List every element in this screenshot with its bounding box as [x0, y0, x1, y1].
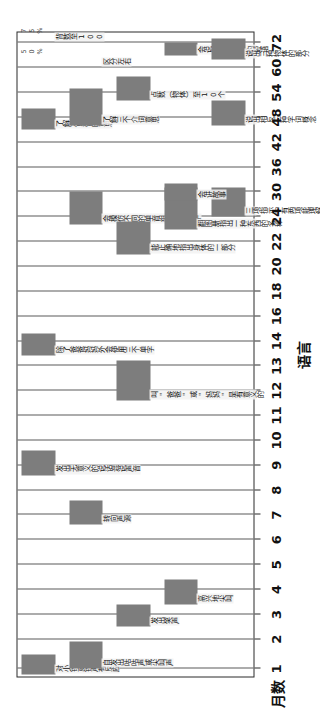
axis-tick: [254, 191, 260, 192]
milestone-label: 说出三种物体的部分: [244, 48, 256, 58]
milestone-label: 点数（物体）至10个: [149, 90, 225, 100]
milestone-bar: [211, 100, 245, 125]
milestone-label: 发出无意义的说话混说声音: [54, 464, 140, 474]
axis-tick: [254, 668, 260, 669]
axis-tick-label: 42: [268, 133, 283, 151]
axis-tick: [254, 489, 260, 490]
axis-tick: [254, 514, 260, 515]
gridline: [17, 439, 253, 440]
gridline: [17, 265, 253, 266]
axis-tick: [254, 240, 260, 241]
axis-tick: [254, 414, 260, 415]
axis-tick-label: 30: [268, 182, 283, 200]
milestone-label: 转向声源: [101, 514, 131, 524]
milestone-label: 区分左右: [101, 57, 131, 67]
axis-tick-label: 3: [268, 609, 283, 618]
milestone-label: 高兴地尖叫: [196, 593, 233, 603]
axis-tick: [254, 439, 260, 440]
axis-tick-label: 7: [268, 510, 283, 519]
milestone-label: 发出笑声: [149, 616, 179, 626]
axis-tick-label: 18: [268, 282, 283, 300]
axis-tick-label: 36: [268, 158, 283, 176]
gridline: [17, 414, 253, 415]
gridline: [17, 514, 253, 515]
milestone-label: 自发出咕咕声或尖叫声: [101, 658, 173, 668]
axis-tick: [254, 464, 260, 465]
milestone-label: 叫"爸爸"或"妈妈"是有意义的: [149, 389, 256, 399]
axis-tick: [254, 141, 260, 142]
axis-tick: [254, 91, 260, 92]
gridline: [17, 638, 253, 639]
milestone-label: 能正确地指出身体的一部分: [149, 243, 235, 253]
axis-tick-label: 4: [268, 584, 283, 593]
axis-tick-label: 6: [268, 535, 283, 544]
axis-tick-label: 11: [268, 406, 283, 424]
gridline: [17, 66, 253, 67]
axis-tick-label: 22: [268, 232, 283, 250]
gridline: [17, 315, 253, 316]
milestone-bar: [116, 360, 150, 400]
axis-tick-label: 54: [268, 83, 283, 101]
axis-tick: [254, 588, 260, 589]
axis-tick: [254, 613, 260, 614]
milestone-bar: [116, 221, 150, 253]
milestone-bar: [164, 579, 198, 604]
percentile-annotation: 50%: [19, 47, 43, 55]
milestone-label: 背数至100: [54, 32, 104, 42]
category-title-language: 语言: [292, 31, 309, 677]
axis-tick: [254, 265, 260, 266]
milestone-bar: [69, 191, 103, 224]
milestone-bar: [164, 42, 198, 54]
milestone-bar: [69, 500, 103, 525]
milestone-label: 除了爸爸妈妈外会使用三个单字: [54, 345, 154, 355]
axis-tick: [254, 66, 260, 67]
axis-tick: [254, 538, 260, 539]
milestone-label: 翻图册指出一种东西的名称: [196, 218, 256, 228]
milestone-bar: [116, 604, 150, 626]
gridline: [17, 538, 253, 539]
milestone-bar: [211, 38, 245, 59]
axis-tick-label: 12: [268, 381, 283, 399]
axis-tick: [254, 364, 260, 365]
gridline: [17, 141, 253, 142]
axis-tick-label: 14: [268, 332, 283, 350]
axis-title-months: 月数: [266, 679, 286, 707]
axis-tick: [254, 563, 260, 564]
axis-tick-label: 10: [268, 431, 283, 449]
rotated-chart-canvas: 1234567891011121314161820222430364248546…: [0, 0, 309, 721]
milestone-bar: [21, 450, 55, 475]
axis-tick-label: 8: [268, 485, 283, 494]
milestone-bar: [69, 88, 103, 125]
milestone-bar: [69, 641, 103, 668]
axis-tick-label: 20: [268, 257, 283, 275]
gridline: [17, 489, 253, 490]
axis-tick: [254, 41, 260, 42]
plot-area: 1234567891011121314161820222430364248546…: [16, 31, 254, 677]
axis-tick-label: 13: [268, 356, 283, 374]
axis-tick-label: 1: [268, 664, 283, 673]
chart-figure: 1234567891011121314161820222430364248546…: [0, 0, 309, 721]
axis-tick-label: 60: [268, 58, 283, 76]
milestone-label: 了解三个介词意思: [101, 114, 159, 124]
gridline: [17, 290, 253, 291]
axis-tick: [254, 166, 260, 167]
milestone-bar: [116, 76, 150, 101]
axis-tick-label: 9: [268, 460, 283, 469]
milestone-label: 说出相反三种字词概念: [244, 114, 256, 124]
axis-tick: [254, 638, 260, 639]
gridline: [17, 166, 253, 167]
axis-tick-label: 5: [268, 560, 283, 569]
milestone-bar: [21, 333, 55, 355]
axis-tick: [254, 290, 260, 291]
gridline: [17, 588, 253, 589]
axis-tick-label: 16: [268, 307, 283, 325]
milestone-label: 会讲故事: [196, 189, 226, 199]
milestone-bar: [21, 654, 55, 675]
milestone-bar: [21, 108, 55, 130]
axis-tick: [254, 315, 260, 316]
gridline: [17, 563, 253, 564]
milestone-bar: [164, 183, 198, 200]
axis-tick: [254, 340, 260, 341]
milestone-label: 三项指示中有两项能理解能做到: [244, 206, 256, 216]
percentile-annotation: 75%: [19, 26, 43, 34]
